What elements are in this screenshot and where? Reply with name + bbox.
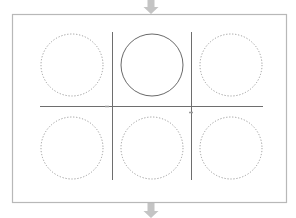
frame [13,15,287,203]
circle-top-left [41,34,103,96]
in-arrow-icon [144,0,159,14]
out-arrow-icon [144,203,159,218]
circle-bottom-center [121,117,183,179]
grid-diagram [0,0,296,218]
markers-layer [105,107,193,113]
circle-bottom-right [200,117,262,179]
arrows-layer [144,0,159,218]
circle-top-center [121,34,183,96]
diagram-canvas [0,0,296,218]
circle-top-right [200,34,262,96]
circle-bottom-left [41,117,103,179]
grid-lines-layer [40,32,263,180]
